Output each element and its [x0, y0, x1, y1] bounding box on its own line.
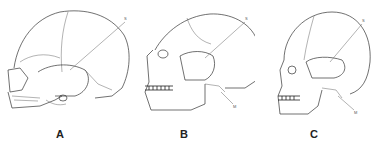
panel-letter-b: B — [174, 128, 194, 140]
skull-panel-a: S A — [0, 0, 130, 149]
modern-skull-drawing — [250, 0, 380, 149]
label-squamosal-b: S — [245, 16, 248, 21]
panel-letter-a: A — [50, 128, 70, 140]
panel-letter-c: C — [304, 128, 324, 140]
skull-panel-b: S M B — [125, 0, 255, 149]
label-mastoid-b: M — [233, 104, 236, 109]
archaic-skull-drawing — [125, 0, 255, 149]
label-mastoid-c: M — [354, 110, 357, 115]
skull-panel-c: S M C — [250, 0, 380, 149]
infant-skull-drawing — [0, 0, 130, 149]
label-squamosal-c: S — [362, 18, 365, 23]
